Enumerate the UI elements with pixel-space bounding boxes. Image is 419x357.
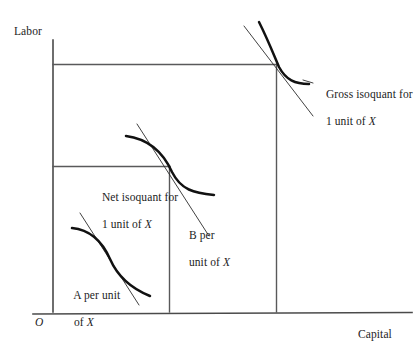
isoquant-gross-group <box>244 22 313 116</box>
label-a-per-unit: A per unit of X <box>62 276 120 343</box>
isoquant-gross-tangent-line <box>244 26 313 116</box>
label-net-line2-prefix: 1 unit of <box>102 218 145 230</box>
isoquant-gross-curve <box>259 22 309 84</box>
axis-label-capital: Capital <box>358 328 392 341</box>
label-b-line1: B per <box>189 229 215 241</box>
isoquant-diagram: Labor Capital O Gross isoquant for 1 uni… <box>0 0 419 357</box>
label-net-isoquant: Net isoquant for 1 unit of X <box>90 178 178 245</box>
label-a-line1: A per unit <box>73 289 120 301</box>
label-gross-line2-italic: X <box>369 115 376 127</box>
label-b-per-unit: B per unit of X <box>177 216 230 283</box>
label-b-line2-italic: X <box>223 256 230 268</box>
label-gross-line1: Gross isoquant for <box>326 88 413 100</box>
gross-label-leader-line <box>303 80 313 83</box>
label-b-line2-prefix: unit of <box>189 256 223 268</box>
axis-label-labor: Labor <box>14 25 42 38</box>
label-a-line2-italic: X <box>87 316 94 328</box>
label-net-line2-italic: X <box>145 218 152 230</box>
label-gross-isoquant: Gross isoquant for 1 unit of X <box>314 75 413 142</box>
label-gross-line2-prefix: 1 unit of <box>326 115 369 127</box>
origin-label: O <box>35 316 43 329</box>
label-a-line2-prefix: of <box>74 316 87 328</box>
label-net-line1: Net isoquant for <box>102 191 178 203</box>
